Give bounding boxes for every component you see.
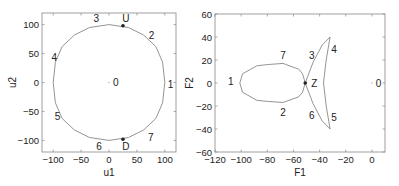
annotation-label: 5 [55,111,61,122]
x-tick-label: −80 [259,154,275,165]
x-tick-label: 0 [106,154,111,165]
left-plot-u1-u2: −100−50050100100500−50−100u1u201234567UD [7,13,176,178]
y-axis-label: F2 [184,77,195,89]
annotation-label: 2 [280,107,286,118]
x-tick-label: −20 [338,154,354,165]
marker-z [303,81,307,85]
y-tick-label: 40 [201,32,212,43]
x-tick-label: 0 [369,154,374,165]
y-tick-label: −100 [18,135,39,146]
x-axis-label: F1 [294,167,306,178]
x-tick-label: 100 [157,154,173,165]
y-tick-label: 20 [201,55,212,66]
axes-box [215,14,385,152]
origin-dot [108,82,110,84]
y-tick-label: −20 [196,101,212,112]
annotation-label: 6 [309,110,315,121]
y-tick-label: 0 [34,77,39,88]
annotation-label: 0 [376,78,382,89]
x-axis-label: u1 [103,167,115,178]
annotation-label: 3 [93,13,99,24]
annotation-label: 4 [52,52,58,63]
annotation-label: Z [311,78,317,89]
annotation-label: 3 [309,50,315,61]
x-tick-label: −100 [42,154,63,165]
y-tick-label: 50 [28,48,39,59]
annotation-label: U [122,13,129,24]
figure-svg: −100−50050100100500−50−100u1u201234567UD… [0,0,399,186]
marker-u [121,24,125,28]
annotation-label: 2 [149,30,155,41]
x-tick-label: −100 [230,154,251,165]
annotation-label: 7 [148,132,154,143]
x-tick-label: 50 [132,154,143,165]
figure: −100−50050100100500−50−100u1u201234567UD… [0,0,399,186]
x-tick-label: −50 [73,154,89,165]
annotation-label: 4 [331,44,337,55]
y-tick-label: 100 [23,19,39,30]
y-axis-label: u2 [7,77,18,89]
annotation-label: D [122,141,129,152]
annotation-label: 5 [331,112,337,123]
y-tick-label: −50 [23,106,39,117]
origin-dot [371,82,373,84]
y-tick-label: 60 [201,9,212,20]
x-tick-label: −40 [312,154,328,165]
annotation-label: 1 [228,76,234,87]
y-tick-label: −60 [196,147,212,158]
annotation-label: 7 [280,50,286,61]
annotation-label: 0 [113,77,119,88]
x-tick-label: −60 [285,154,301,165]
annotation-label: 6 [96,141,102,152]
y-tick-label: 0 [207,78,212,89]
annotation-label: 1 [168,79,174,90]
right-plot-f1-f2: −120−100−80−60−40−2006040200−20−40−60F1F… [184,9,385,179]
y-tick-label: −40 [196,124,212,135]
